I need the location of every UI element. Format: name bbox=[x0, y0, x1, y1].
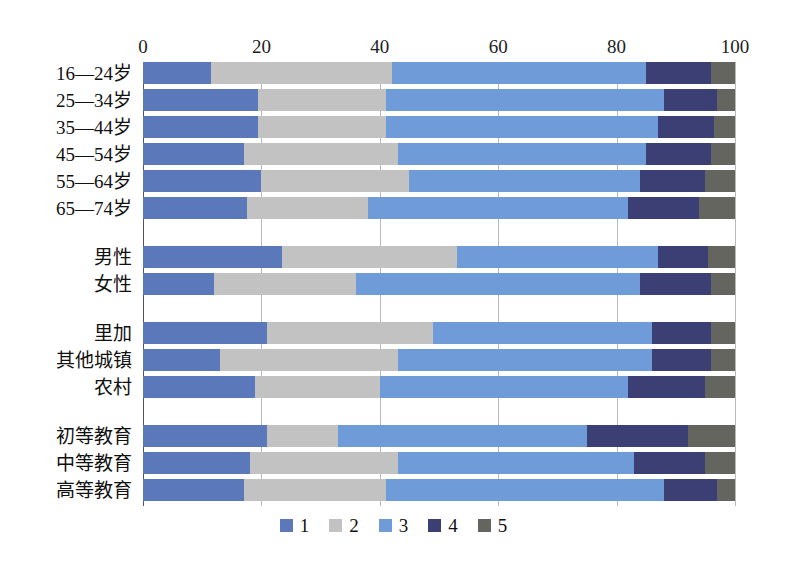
bar-segment-3 bbox=[356, 273, 640, 295]
bar-segment-5 bbox=[705, 170, 735, 192]
bar-segment-1 bbox=[143, 452, 250, 474]
category-label: 农村 bbox=[94, 378, 132, 397]
bar-segment-2 bbox=[214, 273, 356, 295]
bar-segment-2 bbox=[267, 425, 338, 447]
bar-segment-2 bbox=[258, 89, 385, 111]
bar-segment-4 bbox=[640, 273, 711, 295]
bar-segment-5 bbox=[711, 273, 735, 295]
category-label: 65—74岁 bbox=[56, 199, 132, 218]
legend-swatch-icon bbox=[428, 519, 441, 532]
legend-swatch-icon bbox=[478, 519, 491, 532]
bar-row bbox=[143, 479, 735, 501]
legend-item-2[interactable]: 2 bbox=[329, 516, 359, 535]
bar-segment-1 bbox=[143, 246, 282, 268]
bar-segment-5 bbox=[688, 425, 735, 447]
legend-item-4[interactable]: 4 bbox=[428, 516, 458, 535]
bar-segment-5 bbox=[711, 322, 735, 344]
bar-row bbox=[143, 273, 735, 295]
bar-segment-4 bbox=[587, 425, 688, 447]
bar-segment-4 bbox=[628, 376, 705, 398]
legend-item-1[interactable]: 1 bbox=[280, 516, 310, 535]
bar-segment-3 bbox=[338, 425, 587, 447]
bar-row bbox=[143, 89, 735, 111]
bar-segment-3 bbox=[398, 452, 635, 474]
bar-segment-1 bbox=[143, 322, 267, 344]
bar-segment-3 bbox=[386, 89, 664, 111]
bar-row bbox=[143, 322, 735, 344]
category-label: 55—64岁 bbox=[56, 172, 132, 191]
bar-segment-2 bbox=[267, 322, 433, 344]
category-label: 35—44岁 bbox=[56, 118, 132, 137]
bar-segment-4 bbox=[646, 62, 711, 84]
category-label: 16—24岁 bbox=[56, 64, 132, 83]
bar-segment-4 bbox=[664, 479, 717, 501]
bar-row bbox=[143, 197, 735, 219]
bar-segment-1 bbox=[143, 349, 220, 371]
bar-segment-2 bbox=[244, 479, 386, 501]
legend-swatch-icon bbox=[280, 519, 293, 532]
category-label: 高等教育 bbox=[56, 481, 132, 500]
bar-row bbox=[143, 425, 735, 447]
bar-row bbox=[143, 170, 735, 192]
legend-label: 2 bbox=[349, 516, 359, 535]
bar-segment-3 bbox=[380, 376, 629, 398]
bar-segment-3 bbox=[392, 62, 647, 84]
x-axis-tick-40: 40 bbox=[370, 36, 389, 58]
legend-swatch-icon bbox=[329, 519, 342, 532]
bar-segment-1 bbox=[143, 376, 255, 398]
bar-segment-1 bbox=[143, 143, 244, 165]
bar-segment-5 bbox=[711, 143, 735, 165]
bar-segment-3 bbox=[386, 479, 664, 501]
bar-segment-2 bbox=[255, 376, 379, 398]
bar-segment-2 bbox=[211, 62, 392, 84]
bar-segment-4 bbox=[634, 452, 705, 474]
legend-label: 4 bbox=[448, 516, 458, 535]
bar-segment-3 bbox=[398, 349, 653, 371]
bar-segment-2 bbox=[261, 170, 409, 192]
bar-segment-4 bbox=[646, 143, 711, 165]
bar-row bbox=[143, 143, 735, 165]
category-label: 里加 bbox=[94, 324, 132, 343]
chart-legend: 12345 bbox=[0, 510, 787, 540]
bar-segment-4 bbox=[658, 116, 714, 138]
bar-segment-3 bbox=[433, 322, 652, 344]
x-axis-tick-100: 100 bbox=[721, 36, 750, 58]
category-label: 其他城镇 bbox=[56, 351, 132, 370]
bar-segment-1 bbox=[143, 170, 261, 192]
bar-segment-1 bbox=[143, 479, 244, 501]
bar-segment-1 bbox=[143, 116, 258, 138]
bar-segment-2 bbox=[258, 116, 385, 138]
category-label: 初等教育 bbox=[56, 427, 132, 446]
legend-swatch-icon bbox=[379, 519, 392, 532]
bar-segment-4 bbox=[664, 89, 717, 111]
bar-segment-1 bbox=[143, 273, 214, 295]
bar-segment-1 bbox=[143, 197, 247, 219]
x-axis-tick-80: 80 bbox=[607, 36, 626, 58]
bar-segment-5 bbox=[711, 349, 735, 371]
legend-label: 3 bbox=[399, 516, 409, 535]
bar-segment-1 bbox=[143, 425, 267, 447]
bar-segment-2 bbox=[244, 143, 398, 165]
plot-area bbox=[143, 62, 735, 506]
bar-segment-5 bbox=[705, 376, 735, 398]
x-axis-tick-0: 0 bbox=[138, 36, 148, 58]
bar-segment-1 bbox=[143, 62, 211, 84]
bar-row bbox=[143, 349, 735, 371]
bar-segment-5 bbox=[717, 479, 735, 501]
bar-segment-1 bbox=[143, 89, 258, 111]
bar-row bbox=[143, 116, 735, 138]
bar-row bbox=[143, 376, 735, 398]
bar-segment-3 bbox=[386, 116, 658, 138]
bar-segment-5 bbox=[705, 452, 735, 474]
legend-item-5[interactable]: 5 bbox=[478, 516, 508, 535]
bar-segment-3 bbox=[457, 246, 658, 268]
legend-item-3[interactable]: 3 bbox=[379, 516, 409, 535]
bar-segment-4 bbox=[628, 197, 699, 219]
bar-segment-5 bbox=[714, 116, 735, 138]
bar-segment-5 bbox=[699, 197, 735, 219]
bar-segment-2 bbox=[250, 452, 398, 474]
bar-segment-5 bbox=[708, 246, 735, 268]
bar-segment-3 bbox=[368, 197, 628, 219]
bar-segment-4 bbox=[652, 349, 711, 371]
category-label: 中等教育 bbox=[56, 454, 132, 473]
